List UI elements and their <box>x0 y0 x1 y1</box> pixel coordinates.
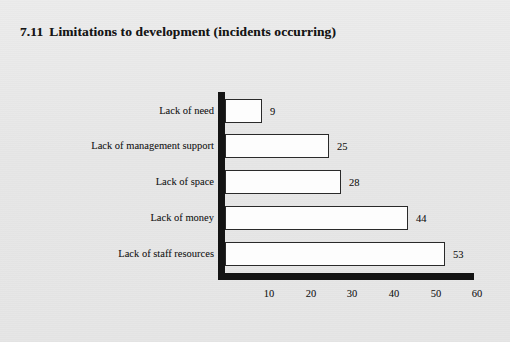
x-tick-label-40: 40 <box>379 288 409 299</box>
bar-row-3: 44 <box>225 206 408 230</box>
bar-value-4: 53 <box>453 249 464 260</box>
bar-row-4: 53 <box>225 242 445 266</box>
x-axis-line <box>218 273 474 280</box>
category-label-2: Lack of space <box>156 170 214 194</box>
bar-lack-of-management-support[interactable] <box>225 134 329 158</box>
x-tick-label-10: 10 <box>254 288 284 299</box>
bar-row-2: 28 <box>225 170 341 194</box>
category-label-0: Lack of need <box>159 99 214 123</box>
bar-row-1: 25 <box>225 134 329 158</box>
category-label-1: Lack of management support <box>91 134 214 158</box>
bar-chart-plot: Lack of need Lack of management support … <box>0 0 510 342</box>
bar-value-0: 9 <box>270 106 275 117</box>
x-tick-label-20: 20 <box>296 288 326 299</box>
bar-value-1: 25 <box>337 141 348 152</box>
x-tick-label-60: 60 <box>462 288 492 299</box>
bar-lack-of-need[interactable] <box>225 99 262 123</box>
bar-value-3: 44 <box>416 213 427 224</box>
category-label-4: Lack of staff resources <box>118 242 214 266</box>
bar-lack-of-staff-resources[interactable] <box>225 242 445 266</box>
x-tick-label-50: 50 <box>421 288 451 299</box>
bar-value-2: 28 <box>349 177 360 188</box>
category-label-3: Lack of money <box>150 206 214 230</box>
chart-page: 7.11Limitations to development (incident… <box>0 0 510 342</box>
y-axis-line <box>218 92 225 280</box>
bar-lack-of-money[interactable] <box>225 206 408 230</box>
bar-lack-of-space[interactable] <box>225 170 341 194</box>
bar-row-0: 9 <box>225 99 262 123</box>
x-tick-label-30: 30 <box>337 288 367 299</box>
